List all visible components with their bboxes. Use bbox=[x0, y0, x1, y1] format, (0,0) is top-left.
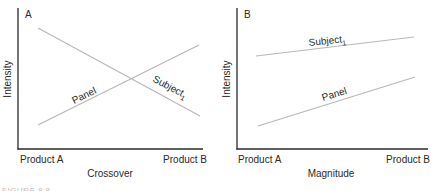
svg-text:Subject1: Subject1 bbox=[150, 73, 189, 102]
figure: A Panel Subject1 Intensity Product A Pro… bbox=[0, 0, 431, 191]
x-tick-product-b: Product B bbox=[386, 154, 430, 165]
x-tick-product-a: Product A bbox=[238, 154, 282, 165]
x-axis-label: Magnitude bbox=[308, 168, 355, 179]
y-axis-label: Intensity bbox=[221, 60, 232, 97]
panel-label: B bbox=[244, 9, 251, 20]
chart-b: B Subject1 Panel Intensity Product A Pro… bbox=[221, 8, 430, 179]
series-subject1-line bbox=[38, 28, 200, 116]
panel-label: A bbox=[25, 9, 32, 20]
x-axis-label: Crossover bbox=[87, 168, 133, 179]
series-subject1-label: Subject1 bbox=[150, 73, 189, 102]
chart-a: A Panel Subject1 Intensity Product A Pro… bbox=[2, 8, 207, 179]
x-tick-product-a: Product A bbox=[20, 154, 64, 165]
y-axis-label: Intensity bbox=[2, 60, 13, 97]
svg-text:Intensity: Intensity bbox=[2, 60, 13, 97]
svg-text:Panel: Panel bbox=[320, 85, 348, 103]
series-panel-label: Panel bbox=[320, 85, 348, 103]
figure-caption: FIGURE 8.8 bbox=[2, 186, 51, 191]
svg-text:Intensity: Intensity bbox=[221, 60, 232, 97]
x-tick-product-b: Product B bbox=[163, 154, 207, 165]
series-panel-line bbox=[258, 77, 415, 126]
